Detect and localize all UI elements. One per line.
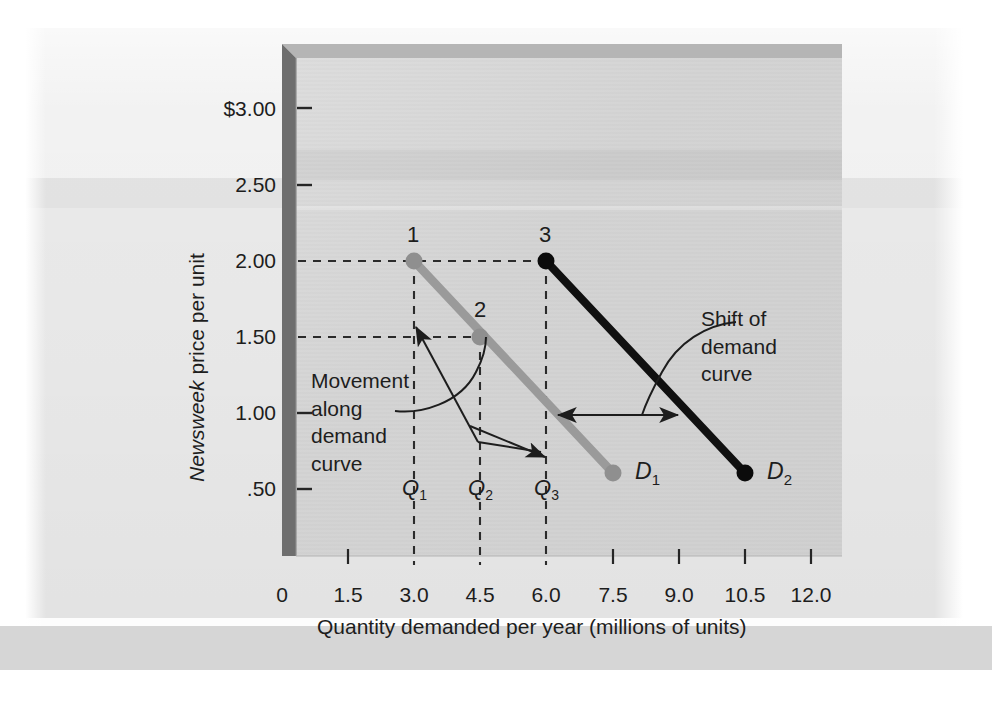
movement-line-1: Movement	[311, 367, 409, 395]
d2-letter: D	[767, 458, 784, 484]
quantity-label-q1: Q1	[402, 477, 427, 502]
y-tick-label-1-50: 1.50	[196, 326, 276, 347]
quantity-label-q2: Q2	[468, 477, 493, 502]
x-tick-label-9-0: 9.0	[649, 584, 709, 605]
q3-subscript: 3	[551, 487, 559, 503]
data-point-1	[406, 253, 423, 270]
x-tick-label-10-5: 10.5	[711, 584, 779, 605]
y-tick-label-2-50: 2.50	[196, 174, 276, 195]
q2-letter: Q	[468, 475, 485, 500]
y-tick-label-2-00: 2.00	[196, 250, 276, 271]
movement-line-2: along	[311, 395, 409, 423]
x-tick-label-4-5: 4.5	[450, 584, 510, 605]
shift-line-1: Shift of	[701, 305, 777, 333]
movement-line-4: curve	[311, 450, 409, 478]
q2-subscript: 2	[485, 487, 493, 503]
d2-endpoint	[737, 465, 754, 482]
y-tick-label-3-00: $3.00	[196, 98, 276, 119]
y-axis-title: Newsweek price per unit	[186, 253, 207, 482]
q1-letter: Q	[402, 475, 419, 500]
d1-letter: D	[635, 458, 652, 484]
x-tick-label-7-5: 7.5	[583, 584, 643, 605]
figure-canvas: $3.00 2.50 2.00 1.50 1.00 .50 Newsweek p…	[0, 0, 992, 721]
point-label-3: 3	[539, 224, 551, 246]
y-axis-ticks	[297, 108, 312, 489]
y-tick-label-0-50: .50	[196, 478, 276, 499]
d1-subscript: 1	[652, 471, 660, 488]
q3-letter: Q	[534, 475, 551, 500]
d1-endpoint	[605, 465, 622, 482]
movement-line-3: demand	[311, 422, 409, 450]
shift-line-2: demand	[701, 333, 777, 361]
x-tick-label-12-0: 12.0	[779, 584, 843, 605]
x-tick-label-3-0: 3.0	[384, 584, 444, 605]
point-label-2: 2	[474, 299, 486, 321]
demand-curve-plot	[0, 0, 992, 721]
q1-subscript: 1	[419, 487, 427, 503]
y-axis-title-italic: Newsweek	[185, 380, 208, 482]
point-label-1: 1	[407, 224, 419, 246]
d2-subscript: 2	[784, 471, 792, 488]
x-axis-title: Quantity demanded per year (millions of …	[317, 616, 747, 637]
x-tick-label-1-5: 1.5	[318, 584, 378, 605]
x-tick-label-0: 0	[266, 584, 298, 605]
curve-label-d2: D2	[767, 460, 792, 487]
data-point-3	[538, 253, 555, 270]
annotation-shift-of-demand-curve: Shift of demand curve	[701, 305, 777, 388]
quantity-label-q3: Q3	[534, 477, 559, 502]
x-tick-label-6-0: 6.0	[516, 584, 576, 605]
curve-label-d1: D1	[635, 460, 660, 487]
y-tick-label-1-00: 1.00	[196, 402, 276, 423]
annotation-movement-along-demand-curve: Movement along demand curve	[311, 367, 409, 478]
shift-line-3: curve	[701, 360, 777, 388]
y-axis-title-rest: price per unit	[185, 253, 208, 380]
movement-arrow	[416, 327, 545, 457]
